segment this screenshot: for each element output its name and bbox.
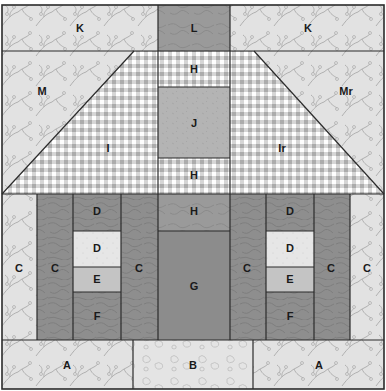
label-f-left: F — [94, 310, 101, 322]
label-b: B — [189, 359, 197, 371]
label-c-right-2: C — [327, 262, 335, 274]
label-a-right: A — [315, 359, 323, 371]
piece-l: L — [158, 5, 230, 51]
label-e-right: E — [286, 273, 293, 285]
piece-a-left: A — [2, 340, 133, 389]
label-k-right: K — [304, 22, 312, 34]
label-k-left: K — [76, 22, 84, 34]
piece-c-right-1: C — [230, 194, 266, 340]
label-h-top: H — [190, 63, 198, 75]
piece-k-left: K — [2, 5, 158, 51]
piece-g-door: G — [158, 231, 230, 340]
label-c-outer-left: C — [15, 262, 23, 274]
piece-j: J — [158, 87, 230, 158]
label-l: L — [191, 22, 198, 34]
label-a-left: A — [63, 359, 71, 371]
piece-e-left: E — [73, 267, 121, 292]
piece-c-left-1: C — [37, 194, 73, 340]
piece-k-right: K — [230, 5, 384, 51]
label-e-left: E — [93, 273, 100, 285]
piece-c-outer-left: C — [2, 194, 37, 340]
piece-c-left-2: C — [121, 194, 158, 340]
label-c-outer-right: C — [363, 262, 371, 274]
piece-c-right-2: C — [314, 194, 350, 340]
piece-c-outer-right: C — [350, 194, 384, 340]
label-d-right-window: D — [286, 242, 294, 254]
piece-f-right: F — [266, 292, 314, 340]
piece-e-right: E — [266, 267, 314, 292]
piece-h-top: H — [158, 51, 230, 87]
piece-d-right-window: D — [266, 231, 314, 267]
label-d-right-top: D — [286, 205, 294, 217]
label-j: J — [191, 117, 197, 129]
label-mr: Mr — [339, 85, 353, 97]
label-ir: Ir — [278, 142, 286, 154]
label-f-right: F — [287, 310, 294, 322]
label-i: I — [106, 142, 109, 154]
label-h-mid: H — [190, 169, 198, 181]
piece-f-left: F — [73, 292, 121, 340]
piece-d-right-top: D — [266, 194, 314, 231]
label-m: M — [37, 85, 46, 97]
piece-h-door-top: H — [158, 194, 230, 231]
label-c-left-1: C — [51, 262, 59, 274]
piece-b: B — [133, 340, 253, 389]
label-d-left-top: D — [93, 205, 101, 217]
label-c-right-1: C — [243, 262, 251, 274]
piece-d-left-window: D — [73, 231, 121, 267]
piece-h-mid: H — [158, 158, 230, 194]
label-g: G — [190, 280, 199, 292]
piece-d-left-top: D — [73, 194, 121, 231]
piece-a-right: A — [253, 340, 384, 389]
label-h-door-top: H — [190, 205, 198, 217]
quilt-block-diagram: K L K M I H J H Ir Mr C C — [0, 0, 386, 391]
label-c-left-2: C — [135, 262, 143, 274]
label-d-left-window: D — [93, 242, 101, 254]
